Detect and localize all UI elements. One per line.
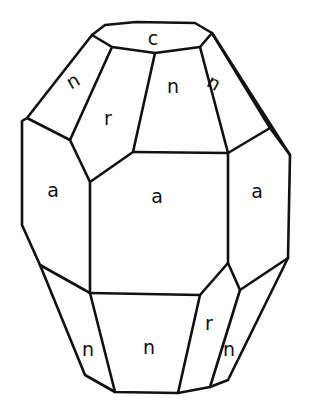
face-label-c-top: c [148,29,158,48]
crystal-edge [178,295,200,393]
face-label-a-right: a [251,182,263,201]
face-label-a-center: a [151,187,163,206]
face-label-r-lower: r [205,314,213,333]
crystal-edge [90,153,228,295]
crystal-diagram: cnrnnaaannrn [0,0,309,417]
face-label-n-upper-center: n [167,77,179,96]
crystal-edge [133,152,228,153]
face-label-n-lower-left: n [82,340,94,359]
crystal-edge [200,47,290,155]
face-label-n-lower-center: n [143,338,155,357]
crystal-edge [22,33,290,393]
face-label-r-upper: r [104,109,112,128]
face-label-a-left: a [47,181,59,200]
crystal-edge [70,53,155,182]
face-label-n-lower-right: n [223,340,235,359]
crystal-edge [27,47,112,140]
